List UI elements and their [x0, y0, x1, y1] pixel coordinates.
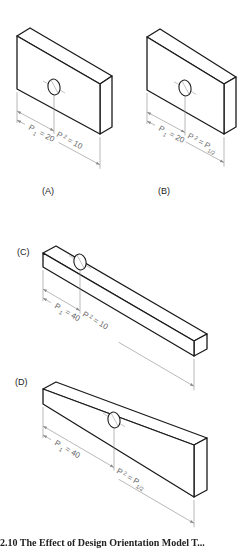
dimension-p1-label: P 1 = 20	[26, 123, 56, 146]
panel-label-c: (C)	[17, 247, 30, 257]
panel-a: P 1 = 20P 2 = 10	[17, 28, 112, 169]
dimension-p1-label: P 1 = 40	[52, 301, 82, 325]
panel-label-b: (B)	[158, 186, 170, 196]
dimension-p2-label: P 2 = 10	[81, 310, 110, 332]
figure-caption: 2.10 The Effect of Design Orientation Mo…	[0, 537, 242, 548]
block-front-face	[43, 253, 194, 356]
dimension-p2-label: P 2 = P1/2	[185, 131, 218, 156]
dimension-p1-label: P 1 = 20	[156, 124, 186, 147]
figure-canvas: P 1 = 20P 2 = 10P 1 = 20P 2 = P1/2P 1 = …	[0, 0, 242, 550]
block-side-face	[100, 76, 112, 134]
block-top-face	[43, 246, 207, 341]
dimension-p2-label: P 2 = 10	[55, 130, 84, 151]
block-side-face	[194, 438, 207, 497]
panel-c: P 1 = 40P 2 = 10	[43, 246, 207, 390]
block-side-face	[224, 77, 236, 134]
panel-label-a: (A)	[42, 186, 54, 196]
panel-d: P 1 = 40P 2 = P1/2	[43, 382, 207, 527]
dimension-p1-label: P 1 = 40	[52, 438, 82, 462]
panel-label-d: (D)	[15, 377, 28, 387]
panel-b: P 1 = 20P 2 = P1/2	[147, 29, 236, 167]
